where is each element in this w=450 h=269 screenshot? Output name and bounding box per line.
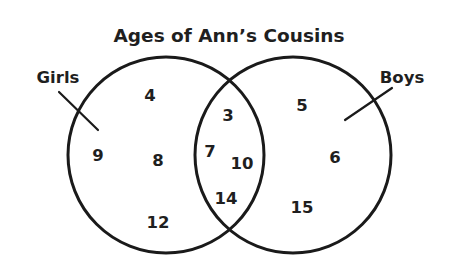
girls-only-value: 9 <box>92 146 103 165</box>
girls-only-value: 4 <box>144 86 155 105</box>
region-girls-only: 4 9 8 12 <box>92 86 169 232</box>
both-value: 3 <box>222 106 233 125</box>
region-both: 3 7 10 14 <box>204 106 253 208</box>
girls-label: Girls <box>37 68 80 87</box>
boys-only-value: 15 <box>291 198 314 217</box>
girls-label-leader-line <box>59 92 98 130</box>
boys-only-value: 5 <box>296 96 307 115</box>
region-boys-only: 5 6 15 <box>291 96 341 217</box>
girls-only-value: 12 <box>147 213 170 232</box>
boys-label: Boys <box>380 68 425 87</box>
diagram-title: Ages of Ann’s Cousins <box>114 25 345 46</box>
both-value: 7 <box>204 142 215 161</box>
both-value: 10 <box>231 154 254 173</box>
boys-circle <box>195 57 391 253</box>
boys-only-value: 6 <box>329 148 340 167</box>
girls-only-value: 8 <box>152 151 163 170</box>
venn-diagram: Ages of Ann’s Cousins Girls Boys 4 9 8 1… <box>0 0 450 269</box>
both-value: 14 <box>215 189 238 208</box>
